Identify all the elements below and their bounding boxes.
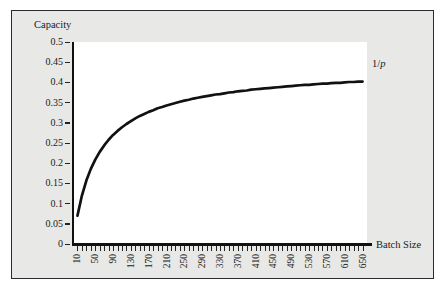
x-tick-mark bbox=[135, 246, 136, 251]
asymptote-prefix: 1/ bbox=[372, 58, 380, 69]
x-tick-mark bbox=[233, 246, 234, 251]
y-tick: 0.25 bbox=[12, 137, 70, 149]
x-tick-mark bbox=[109, 246, 110, 251]
y-axis-ticks: 00.050.10.150.20.250.30.350.40.450.5 bbox=[12, 11, 72, 280]
x-axis-title: Batch Size bbox=[376, 239, 421, 250]
x-tick-label: 570 bbox=[322, 254, 332, 268]
capacity-curve-path bbox=[77, 82, 362, 216]
x-tick-label: 90 bbox=[108, 254, 118, 264]
x-tick-mark bbox=[358, 246, 359, 251]
x-tick-mark bbox=[113, 246, 114, 251]
x-tick-mark bbox=[149, 246, 150, 251]
x-tick-label: 650 bbox=[358, 254, 368, 268]
y-tick-mark bbox=[65, 163, 70, 164]
x-tick-mark bbox=[95, 246, 96, 251]
y-tick: 0.4 bbox=[12, 76, 70, 88]
x-tick-mark bbox=[193, 246, 194, 251]
x-tick-mark bbox=[314, 246, 315, 251]
x-tick-mark bbox=[318, 246, 319, 251]
x-tick-mark bbox=[300, 246, 301, 251]
x-tick-mark bbox=[242, 246, 243, 251]
x-tick-mark bbox=[238, 246, 239, 251]
x-tick-label: 170 bbox=[144, 254, 154, 268]
asymptote-label: 1/p bbox=[372, 58, 385, 69]
x-tick-label: 450 bbox=[268, 254, 278, 268]
y-tick-label: 0 bbox=[58, 238, 63, 250]
x-tick-mark bbox=[131, 246, 132, 251]
x-tick-mark bbox=[140, 246, 141, 251]
x-tick-mark bbox=[216, 246, 217, 251]
x-tick-mark bbox=[77, 246, 78, 251]
x-tick-mark bbox=[296, 246, 297, 251]
x-tick-mark bbox=[86, 246, 87, 251]
x-tick-mark bbox=[144, 246, 145, 251]
y-tick-mark bbox=[65, 183, 70, 184]
y-tick-label: 0.4 bbox=[51, 76, 64, 88]
x-tick-label: 250 bbox=[179, 254, 189, 268]
x-tick-label: 490 bbox=[286, 254, 296, 268]
x-tick-mark bbox=[340, 246, 341, 251]
x-tick-mark bbox=[180, 246, 181, 251]
x-tick-mark bbox=[100, 246, 101, 251]
x-tick-mark bbox=[349, 246, 350, 251]
y-tick-label: 0.2 bbox=[51, 157, 64, 169]
x-tick-mark bbox=[153, 246, 154, 251]
x-tick-mark bbox=[331, 246, 332, 251]
capacity-curve bbox=[73, 42, 367, 244]
x-tick-mark bbox=[322, 246, 323, 251]
y-tick-mark bbox=[65, 122, 70, 123]
x-tick-label: 330 bbox=[215, 254, 225, 268]
x-tick-mark bbox=[269, 246, 270, 251]
y-tick-label: 0.25 bbox=[46, 137, 64, 149]
y-tick-mark bbox=[65, 203, 70, 204]
y-tick-label: 0.3 bbox=[51, 117, 64, 129]
x-tick-mark bbox=[82, 246, 83, 251]
y-tick: 0.5 bbox=[12, 36, 70, 48]
x-tick-label: 610 bbox=[340, 254, 350, 268]
x-tick-label: 290 bbox=[197, 254, 207, 268]
y-tick-label: 0.5 bbox=[51, 36, 64, 48]
x-tick-mark bbox=[278, 246, 279, 251]
x-tick-mark bbox=[287, 246, 288, 251]
y-tick-label: 0.05 bbox=[46, 218, 64, 230]
x-tick-label: 530 bbox=[304, 254, 314, 268]
x-tick-mark bbox=[260, 246, 261, 251]
y-tick: 0.3 bbox=[12, 117, 70, 129]
y-tick: 0.1 bbox=[12, 198, 70, 210]
x-tick-mark bbox=[354, 246, 355, 251]
x-tick-mark bbox=[256, 246, 257, 251]
x-tick-mark bbox=[220, 246, 221, 251]
x-tick-label: 50 bbox=[90, 254, 100, 264]
x-tick-mark bbox=[189, 246, 190, 251]
y-tick-mark bbox=[65, 42, 70, 43]
y-tick-label: 0.45 bbox=[46, 56, 64, 68]
x-tick-label: 370 bbox=[233, 254, 243, 268]
asymptote-symbol: p bbox=[380, 58, 385, 69]
y-tick-mark bbox=[65, 143, 70, 144]
x-tick-mark bbox=[104, 246, 105, 251]
y-tick: 0.35 bbox=[12, 97, 70, 109]
x-tick-label: 10 bbox=[72, 254, 82, 264]
x-tick-mark bbox=[224, 246, 225, 251]
x-tick-mark bbox=[265, 246, 266, 251]
y-tick: 0 bbox=[12, 238, 70, 250]
x-tick-mark bbox=[251, 246, 252, 251]
y-tick-label: 0.1 bbox=[51, 198, 64, 210]
x-tick-mark bbox=[282, 246, 283, 251]
x-tick-mark bbox=[118, 246, 119, 251]
chart-figure: Capacity 00.050.10.150.20.250.30.350.40.… bbox=[11, 10, 434, 279]
y-tick-mark bbox=[65, 82, 70, 83]
x-tick-mark bbox=[363, 246, 364, 251]
x-tick-label: 210 bbox=[162, 254, 172, 268]
y-tick-mark bbox=[65, 62, 70, 63]
x-tick-mark bbox=[327, 246, 328, 251]
x-tick-mark bbox=[198, 246, 199, 251]
x-tick-mark bbox=[305, 246, 306, 251]
y-tick-mark bbox=[65, 102, 70, 103]
x-tick-mark bbox=[291, 246, 292, 251]
x-tick-mark bbox=[229, 246, 230, 251]
x-tick-mark bbox=[345, 246, 346, 251]
x-tick-mark bbox=[158, 246, 159, 251]
x-tick-mark bbox=[91, 246, 92, 251]
x-tick-mark bbox=[167, 246, 168, 251]
